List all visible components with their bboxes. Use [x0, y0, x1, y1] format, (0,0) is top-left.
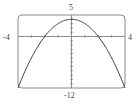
axes — [18, 15, 125, 88]
y-min-label: -12 — [64, 91, 75, 100]
y-max-label: 5 — [69, 3, 73, 12]
x-max-label: 4 — [128, 33, 132, 42]
graph-window: -4 4 5 -12 — [0, 0, 137, 104]
x-min-label: -4 — [3, 33, 10, 42]
